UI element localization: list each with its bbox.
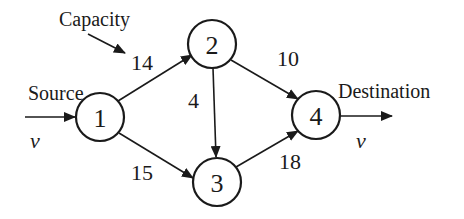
- edge-1-2: [118, 55, 192, 101]
- capacity-label-2-3: 4: [188, 88, 199, 113]
- node-2: 2: [188, 20, 236, 68]
- destination-annotation: Destination: [338, 80, 430, 102]
- node-4: 4: [292, 91, 340, 139]
- node-3: 3: [193, 158, 241, 206]
- node-1-label: 1: [94, 104, 107, 133]
- flow-out-label: v: [356, 128, 366, 153]
- capacity-label-2-4: 10: [277, 46, 299, 71]
- flow-network-diagram: 1 2 3 4 14 15 4 10 18 Capacity Source De…: [0, 0, 464, 219]
- capacity-pointer-arrow: [88, 34, 125, 53]
- node-4-label: 4: [310, 102, 323, 131]
- capacity-label-3-4: 18: [279, 149, 301, 174]
- node-3-label: 3: [211, 169, 224, 198]
- capacity-annotation: Capacity: [59, 8, 130, 31]
- edge-2-3: [213, 68, 216, 157]
- source-annotation: Source: [28, 82, 84, 104]
- capacity-label-1-3: 15: [131, 160, 153, 185]
- capacity-label-1-2: 14: [131, 50, 153, 75]
- node-2-label: 2: [206, 31, 219, 60]
- flow-in-label: v: [30, 128, 40, 153]
